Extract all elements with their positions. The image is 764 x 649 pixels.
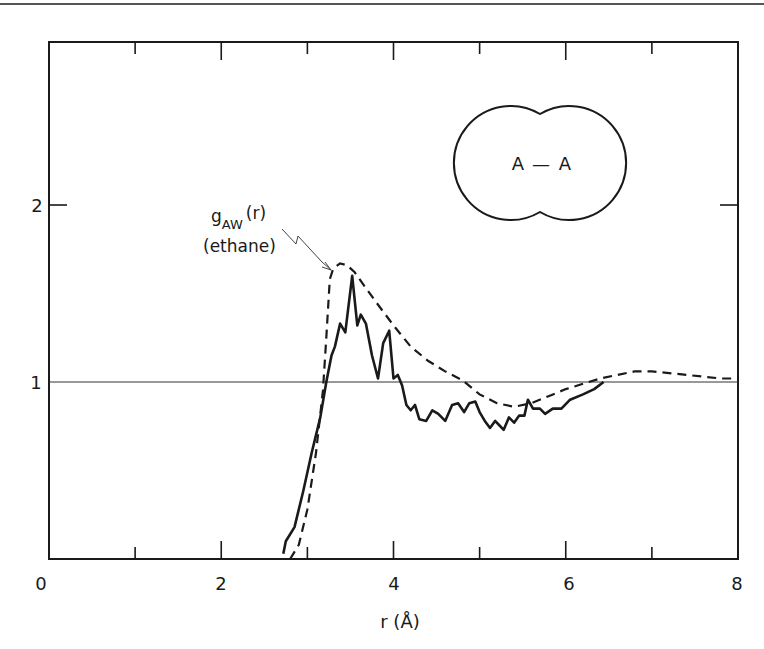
annotation-g: gAW(r) — [211, 203, 266, 232]
inset-molecule-diagram: A — A — [454, 106, 626, 220]
inset-label-left: A — [512, 153, 525, 174]
x-tick-label-4: 4 — [388, 573, 399, 594]
chart-figure: 0 2 4 6 8 1 2 r (Å) A — A gAW(r) (ethane… — [0, 0, 764, 649]
y-tick-label-2: 2 — [31, 195, 42, 216]
x-axis-label: r (Å) — [380, 611, 419, 632]
y-tick-label-1: 1 — [30, 372, 41, 393]
inset-label-right: A — [559, 153, 572, 174]
annotation-subscript: AW — [222, 217, 243, 232]
x-tick-label-0: 0 — [35, 573, 46, 594]
series-a-a-solid — [283, 276, 603, 554]
annotation-gaw-ethane: gAW(r) (ethane) — [203, 203, 331, 270]
annotation-symbol: g — [211, 206, 222, 226]
inset-label-dash: — — [532, 153, 550, 174]
annotation-arrow-icon — [282, 229, 331, 270]
annotation-argument: (r) — [246, 203, 266, 223]
plot-frame — [49, 42, 738, 559]
series-gaw-ethane-dashed — [290, 263, 738, 559]
annotation-ethane: (ethane) — [203, 236, 276, 256]
x-tick-label-8: 8 — [731, 573, 742, 594]
x-tick-label-6: 6 — [563, 573, 574, 594]
x-tick-label-2: 2 — [215, 573, 226, 594]
